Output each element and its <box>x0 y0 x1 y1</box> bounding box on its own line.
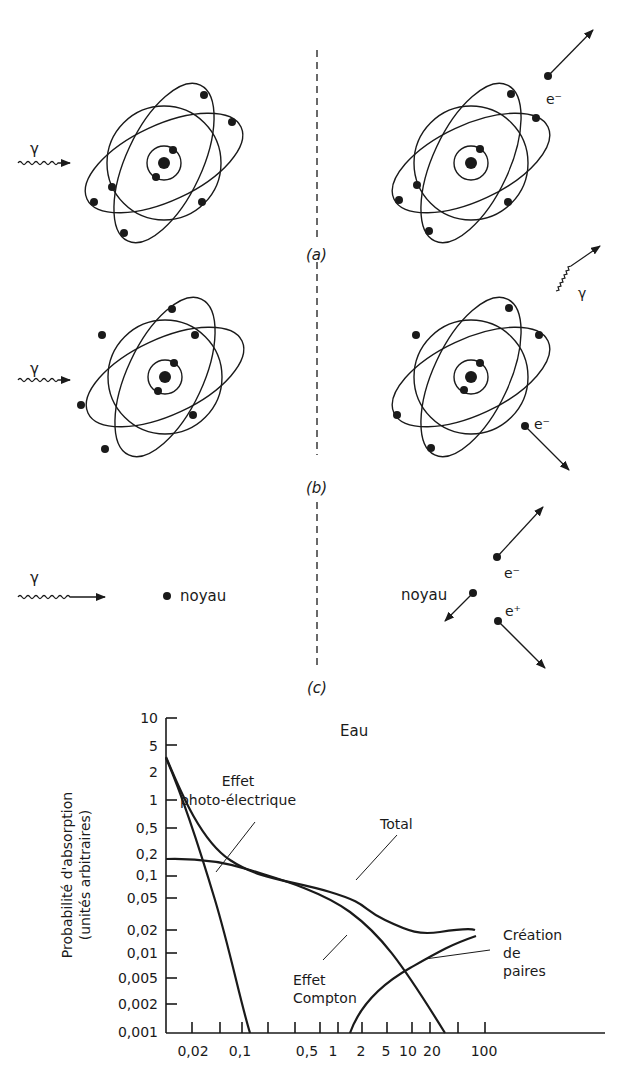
nucleus-icon <box>163 592 171 600</box>
leader-line <box>356 835 397 880</box>
panel-label-a: (a) <box>306 246 327 264</box>
svg-text:1: 1 <box>149 792 158 808</box>
x-tick-labels: 0,02 0,1 0,5 1 2 5 10 20 100 <box>177 1043 497 1059</box>
positron-arrow-icon <box>498 621 545 668</box>
y-tick-labels: 10 5 2 1 0,5 0,2 0,1 0,05 0,02 0,01 0,00… <box>118 710 158 1040</box>
svg-text:10: 10 <box>399 1043 417 1059</box>
svg-text:Effet: Effet <box>222 773 255 789</box>
svg-text:5: 5 <box>149 738 158 754</box>
svg-text:photo-électrique: photo-électrique <box>180 792 296 808</box>
svg-text:0,1: 0,1 <box>229 1043 251 1059</box>
svg-text:0,002: 0,002 <box>118 996 158 1012</box>
svg-text:100: 100 <box>471 1043 498 1059</box>
gamma-label: γ <box>30 140 39 158</box>
absorption-chart: 10 5 2 1 0,5 0,2 0,1 0,05 0,02 0,01 0,00… <box>59 710 605 1059</box>
svg-text:0,5: 0,5 <box>136 820 158 836</box>
svg-text:(unités arbitraires): (unités arbitraires) <box>77 810 93 941</box>
svg-text:0,02: 0,02 <box>127 922 158 938</box>
panel-c: γ noyau noyau e⁻ e⁺ (c) <box>18 507 545 697</box>
electron-arrow-icon <box>497 507 543 557</box>
svg-text:20: 20 <box>423 1043 441 1059</box>
atom-icon <box>72 283 258 471</box>
panel-label-b: (b) <box>306 479 327 497</box>
svg-text:Création: Création <box>503 927 562 943</box>
annotation-photoelectric: Effet photo-électrique <box>180 773 296 808</box>
gamma-label: γ <box>30 360 39 378</box>
nucleus-arrow-icon <box>445 593 473 621</box>
gamma-interaction-figure: γ e⁻ (a) γ <box>0 0 625 1074</box>
atom-icon <box>71 69 257 257</box>
annotation-total: Total <box>379 816 413 832</box>
svg-text:0,02: 0,02 <box>177 1043 208 1059</box>
incoming-photon-icon <box>18 596 105 599</box>
incoming-photon-icon <box>18 379 70 382</box>
svg-text:2: 2 <box>357 1043 366 1059</box>
svg-text:Effet: Effet <box>293 972 326 988</box>
electron-label: e⁻ <box>546 91 562 107</box>
svg-text:10: 10 <box>140 710 158 726</box>
ionized-atom-icon <box>378 69 564 257</box>
positron-label: e⁺ <box>505 603 521 619</box>
svg-text:0,01: 0,01 <box>127 945 158 961</box>
gamma-label: γ <box>578 285 586 301</box>
svg-text:0,2: 0,2 <box>136 846 158 862</box>
annotation-pair-production: Création de paires <box>503 927 562 979</box>
incoming-photon-icon <box>18 162 70 165</box>
svg-text:0,005: 0,005 <box>118 970 158 986</box>
svg-text:0,05: 0,05 <box>127 890 158 906</box>
panel-b: γ γ e⁻ (b) <box>18 246 600 497</box>
svg-text:0,1: 0,1 <box>136 867 158 883</box>
electron-label: e⁻ <box>534 416 550 432</box>
svg-text:0,001: 0,001 <box>118 1024 158 1040</box>
nucleus-label: noyau <box>401 586 447 604</box>
svg-text:Probabilité d'absorption: Probabilité d'absorption <box>59 792 75 958</box>
annotation-compton: Effet Compton <box>293 972 357 1006</box>
svg-text:Compton: Compton <box>293 990 357 1006</box>
svg-text:paires: paires <box>503 963 546 979</box>
electron-label: e⁻ <box>504 565 520 581</box>
panel-a: γ e⁻ (a) <box>18 30 593 264</box>
curve-total <box>166 757 475 933</box>
svg-text:de: de <box>503 945 521 961</box>
atom-icon <box>378 283 564 471</box>
chart-title: Eau <box>340 722 368 740</box>
svg-text:1: 1 <box>329 1043 338 1059</box>
electron-arrow-icon <box>525 426 569 470</box>
svg-text:0,5: 0,5 <box>296 1043 318 1059</box>
svg-text:5: 5 <box>382 1043 391 1059</box>
y-axis-label: Probabilité d'absorption (unités arbitra… <box>59 792 93 958</box>
leader-line <box>323 935 347 960</box>
electron-arrow-icon <box>548 30 593 76</box>
panel-label-c: (c) <box>307 679 327 697</box>
gamma-label: γ <box>30 569 39 587</box>
svg-text:2: 2 <box>149 764 158 780</box>
nucleus-label: noyau <box>180 587 226 605</box>
